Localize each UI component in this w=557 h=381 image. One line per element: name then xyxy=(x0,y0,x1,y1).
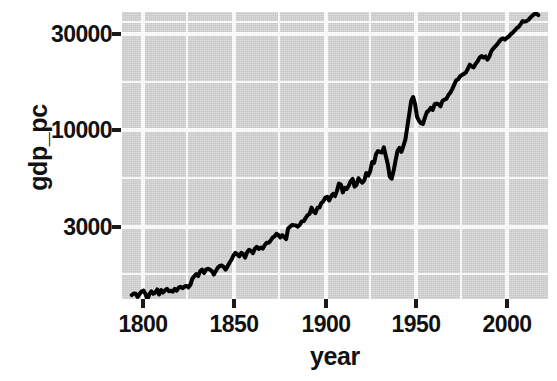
x-axis-tick-labels: 1800 1850 1900 1950 2000 xyxy=(0,0,557,381)
x-axis-title: year xyxy=(122,342,548,371)
chart-figure: gdp_pc 30000 10000 3000 xyxy=(0,0,557,381)
x-tick-label-2000: 2000 xyxy=(452,313,557,336)
